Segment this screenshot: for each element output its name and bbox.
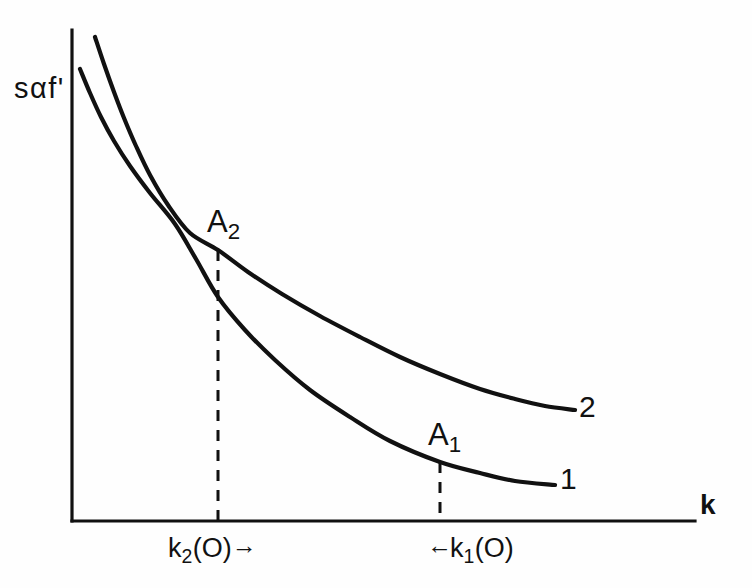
y-axis-label: sαf' xyxy=(14,74,65,103)
point-label-a2-sub: 2 xyxy=(228,219,241,244)
curve-upper-2 xyxy=(95,37,575,410)
tick-label-k1: ←k1(O) xyxy=(427,535,514,567)
left-arrow-icon: ← xyxy=(427,533,450,558)
curve-label-2: 2 xyxy=(579,392,596,422)
point-label-a1: A1 xyxy=(428,419,462,456)
growth-model-figure: sαf' k A2 A1 2 1 k2(O)→ ←k1(O) xyxy=(0,0,752,588)
point-label-a2-base: A xyxy=(207,204,228,239)
right-arrow-icon: → xyxy=(232,533,255,558)
curve-label-1: 1 xyxy=(560,464,577,494)
tick-label-k2-symbol: k xyxy=(168,533,182,563)
curve-lower-1 xyxy=(80,69,555,485)
tick-label-k1-sub: 1 xyxy=(464,545,475,567)
tick-label-k1-symbol: k xyxy=(450,533,464,563)
point-label-a2: A2 xyxy=(207,206,241,243)
x-axis-label: k xyxy=(700,491,716,519)
figure-canvas xyxy=(0,0,752,588)
point-label-a1-sub: 1 xyxy=(449,432,462,457)
point-label-a1-base: A xyxy=(428,417,449,452)
tick-label-k2-arg: (O) xyxy=(193,533,232,563)
tick-label-k2: k2(O)→ xyxy=(168,535,255,567)
tick-label-k1-arg: (O) xyxy=(475,533,514,563)
tick-label-k2-sub: 2 xyxy=(182,545,193,567)
